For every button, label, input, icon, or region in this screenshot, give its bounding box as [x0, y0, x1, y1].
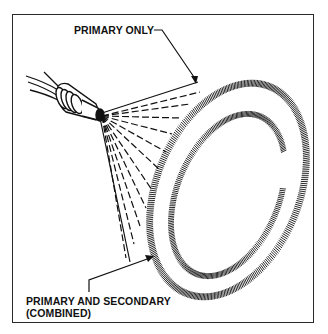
ring-hatch	[303, 164, 310, 165]
ring-hatch	[207, 293, 208, 300]
ring-hatch	[303, 156, 310, 157]
label-primary-and-secondary: PRIMARY AND SECONDARY	[26, 295, 171, 307]
spray-ray	[102, 116, 180, 118]
ring-hatch	[278, 196, 284, 197]
ring-hatch	[151, 186, 158, 187]
ring-hatch	[170, 200, 176, 201]
ring-hatch	[230, 115, 231, 121]
label-combined: (COMBINED)	[26, 307, 91, 319]
ring-hatch	[172, 195, 178, 196]
ring-hatch	[275, 208, 281, 210]
ring-hatch	[149, 196, 156, 197]
ring-hatch	[228, 85, 229, 92]
ring-hatch	[173, 191, 179, 192]
ring-hatch	[303, 148, 310, 150]
ring-hatch	[146, 216, 153, 217]
ring-hatch	[303, 162, 310, 163]
wire-bundle	[26, 72, 60, 100]
ring-hatch	[250, 80, 251, 87]
spray-rays	[102, 92, 200, 258]
ring-hatch	[275, 206, 281, 208]
ring-hatch	[230, 287, 231, 294]
ring-hatch	[146, 217, 153, 218]
ring-hatch	[173, 189, 179, 190]
ring-hatch	[276, 204, 282, 206]
ring-hatch	[209, 273, 210, 279]
ring-hatch	[155, 172, 162, 174]
ring-hatch	[168, 218, 174, 219]
ring-hatch	[154, 176, 161, 178]
ring-hatch	[230, 84, 231, 91]
ring-hatch	[168, 219, 174, 220]
ring-hatch	[201, 293, 202, 300]
combined-leader	[89, 258, 150, 292]
ring-hatch	[220, 271, 221, 277]
ring-hatch	[211, 273, 212, 279]
spray-pattern-illustration	[0, 0, 328, 334]
spray-ray	[102, 116, 134, 244]
ring-hatch	[168, 221, 174, 222]
ring-hatch	[210, 273, 211, 279]
ring-hatch	[272, 250, 277, 255]
ring-hatch	[146, 214, 153, 215]
ring-hatch	[247, 111, 248, 117]
ring-hatch	[181, 122, 186, 127]
ring-hatch	[303, 152, 310, 154]
ring-hatch	[303, 160, 310, 161]
ring-hatch	[171, 198, 177, 199]
ring-hatch	[231, 83, 232, 90]
outer-spray-ring	[146, 80, 310, 301]
ring-hatch	[207, 273, 208, 279]
spray-ray	[102, 116, 160, 170]
ring-hatch	[234, 83, 235, 90]
ring-hatch	[273, 211, 279, 213]
ring-hatch	[225, 289, 226, 296]
ring-hatch	[147, 212, 154, 213]
ring-hatch	[298, 193, 305, 194]
ring-hatch	[176, 180, 182, 182]
ring-hatch	[295, 204, 302, 206]
ring-hatch	[180, 124, 185, 129]
ring-hatch	[227, 268, 228, 274]
ring-hatch	[292, 214, 299, 217]
ring-hatch	[156, 168, 163, 170]
ring-hatch	[227, 289, 228, 296]
ring-hatch	[222, 270, 223, 276]
ring-hatch	[265, 259, 270, 264]
ring-hatch	[220, 291, 221, 298]
ring-hatch	[248, 111, 249, 117]
ring-hatch	[177, 178, 183, 180]
ring-hatch	[300, 187, 307, 188]
ring-hatch	[277, 199, 283, 200]
ring-hatch	[146, 221, 153, 222]
ring-hatch	[278, 197, 284, 198]
ring-hatch	[168, 226, 174, 228]
ring-hatch	[264, 260, 268, 265]
ring-hatch	[231, 287, 233, 294]
primary-only-leader	[154, 30, 196, 80]
ring-hatch	[175, 183, 181, 185]
ring-hatch	[297, 199, 304, 201]
ring-hatch	[188, 114, 192, 119]
ring-hatch	[146, 227, 153, 229]
ring-hatch	[232, 114, 233, 120]
ring-hatch	[269, 255, 274, 260]
ring-hatch	[224, 87, 226, 94]
ring-hatch	[206, 293, 207, 300]
ring-hatch	[301, 183, 308, 184]
ring-hatch	[228, 116, 229, 122]
ring-hatch	[270, 253, 275, 258]
ring-hatch	[151, 184, 158, 185]
ring-hatch	[221, 291, 222, 298]
ring-hatch	[268, 256, 273, 261]
ring-hatch	[156, 170, 163, 172]
ring-hatch	[224, 270, 225, 276]
ring-hatch	[248, 80, 249, 87]
ring-hatch	[296, 200, 303, 202]
ring-hatch	[152, 180, 159, 182]
ring-hatch	[146, 219, 153, 220]
ring-hatch	[186, 116, 191, 121]
ring-hatch	[204, 293, 205, 300]
ring-hatch	[168, 214, 174, 215]
ring-hatch	[300, 185, 307, 186]
